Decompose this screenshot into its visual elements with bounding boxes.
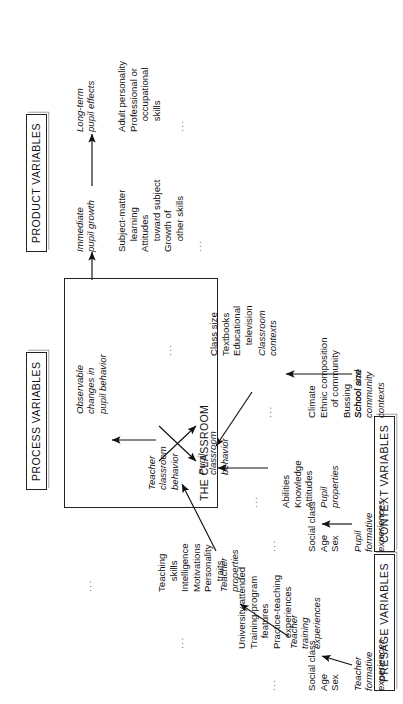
product-group2-ellipsis: ... <box>174 119 185 132</box>
context-group1-heading: Pupil formative experiences <box>352 500 386 552</box>
presage-group3-items: Teaching skills Intelligence Motivations… <box>156 543 225 592</box>
context-group1-ellipsis: ... <box>266 539 277 552</box>
context-group3-items: Climate Ethnic composition of community … <box>306 337 364 418</box>
context-group2-items: Abilities Knowledge Attitudes <box>280 461 315 508</box>
process-variables-label[interactable]: PROCESS VARIABLES <box>26 353 47 491</box>
product-group2-heading: Long-term pupil effects <box>74 81 97 132</box>
presage-group2-items: University attended Training-program fea… <box>236 567 294 649</box>
context-group3-ellipsis: ... <box>262 405 273 418</box>
product-group1-ellipsis: ... <box>192 239 203 252</box>
context-group2-heading: Pupil properties <box>318 465 341 508</box>
presage-group3-ellipsis: ... <box>82 579 93 592</box>
context-group1-items: Social class Age Sex <box>306 501 341 552</box>
product-group1-items: Subject-matter learning Attitudes toward… <box>116 179 185 252</box>
observable-changes-label: Observable changes in pupil behavior <box>74 354 108 414</box>
presage-group1-ellipsis: ... <box>266 678 277 691</box>
context-group2-ellipsis: ... <box>248 495 259 508</box>
diagram-canvas: THE CLASSROOM PRESAGE VARIABLES CONTEXT … <box>0 0 403 704</box>
presage-group1-heading: Teacher formative experiences <box>352 639 386 691</box>
diagram-inner: THE CLASSROOM PRESAGE VARIABLES CONTEXT … <box>0 0 403 704</box>
presage-group2-ellipsis: ... <box>174 636 185 649</box>
context-group4-ellipsis: ... <box>162 343 173 356</box>
teacher-classroom-behavior-label: Teacher classroom behavior <box>146 446 180 490</box>
pupil-classroom-behavior-label: Pupil classroom behavior <box>196 431 230 475</box>
product-group2-items: Adult personality Professional or occupa… <box>116 61 162 132</box>
product-variables-label[interactable]: PRODUCT VARIABLES <box>26 114 47 252</box>
context-group4-heading: Classroom contexts <box>256 310 279 356</box>
product-group1-heading: Immediate pupil growth <box>74 200 97 252</box>
context-group4-items: Class size Textbooks Educational televis… <box>208 305 254 356</box>
